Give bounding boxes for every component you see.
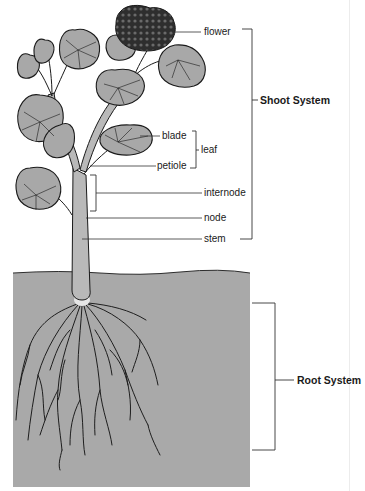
leaf-upper-left-2 (34, 39, 54, 63)
shoot-system-bracket (240, 29, 252, 239)
leaf-bracket (190, 131, 196, 168)
label-stem: stem (204, 233, 226, 245)
leaves (16, 29, 205, 209)
label-blade: blade (162, 130, 186, 142)
label-internode: internode (204, 187, 246, 199)
soil (13, 270, 250, 487)
label-flower: flower (204, 26, 231, 38)
label-petiole: petiole (157, 160, 186, 172)
label-leaf: leaf (201, 144, 217, 156)
plant-diagram (0, 0, 365, 491)
page-edge (349, 0, 350, 491)
internode-bracket (90, 175, 96, 211)
label-root-system: Root System (297, 374, 361, 386)
leaf-blade (100, 125, 152, 155)
leaf-lower-left (16, 167, 61, 209)
label-shoot-system: Shoot System (260, 94, 330, 106)
root-system-bracket (252, 303, 275, 450)
flower-head (116, 5, 176, 51)
label-node: node (204, 212, 226, 224)
